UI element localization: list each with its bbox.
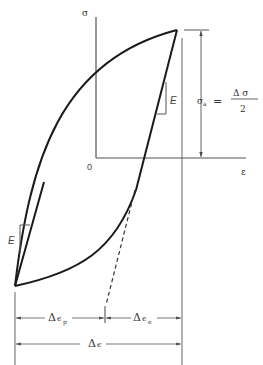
total-delta: Δ	[88, 337, 96, 350]
epsilon-axis-label: ε	[241, 167, 246, 177]
amplitude-equals: =	[213, 95, 222, 108]
elastic-strain-label: Δ ϵ e	[133, 311, 152, 325]
total-strain-label: Δ ϵ	[88, 337, 102, 350]
loop-lower-branch	[15, 190, 136, 286]
plastic-strain-label: Δ ϵ p	[48, 311, 67, 326]
modulus-label-upper: E	[170, 95, 177, 106]
amplitude-formula: σ a = Δ σ 2	[197, 88, 258, 114]
plastic-epsilon: ϵ	[57, 314, 62, 323]
loop-unloading-branch	[136, 30, 177, 190]
hysteresis-diagram: σ ε 0 E E σ a = Δ σ 2 Δ ϵ p Δ ϵ e	[0, 0, 263, 365]
plastic-subscript: p	[63, 318, 67, 326]
sigma-axis-label: σ	[82, 8, 88, 18]
amplitude-numerator: Δ σ	[233, 88, 249, 98]
modulus-label-lower: E	[8, 235, 15, 246]
elastic-subscript: e	[148, 318, 152, 325]
amplitude-subscript: a	[203, 100, 207, 107]
elastic-epsilon: ϵ	[142, 314, 147, 323]
elastic-delta: Δ	[133, 311, 141, 324]
total-epsilon: ϵ	[97, 340, 102, 349]
origin-label: 0	[87, 162, 92, 172]
amplitude-denominator: 2	[240, 104, 246, 114]
elastic-unloading-dashed-line	[106, 190, 135, 305]
plastic-delta: Δ	[48, 311, 56, 324]
